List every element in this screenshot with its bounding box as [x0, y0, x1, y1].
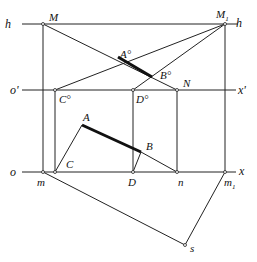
point-m1	[224, 171, 227, 174]
label-xprime: x'	[238, 84, 246, 96]
line-D-B	[133, 152, 141, 172]
point-Cdeg	[54, 89, 57, 92]
label-h-left: h	[5, 18, 11, 30]
segment-Adeg-Bdeg	[118, 57, 152, 77]
label-A: A	[83, 112, 90, 123]
label-s: s	[190, 243, 194, 254]
point-C	[54, 171, 57, 174]
label-C: C	[66, 159, 73, 170]
segment-AB	[82, 125, 141, 152]
point-D	[132, 171, 135, 174]
label-o: o	[10, 166, 16, 178]
point-N	[176, 89, 179, 92]
point-s	[184, 244, 187, 247]
line-M-N	[43, 24, 177, 90]
label-Adeg: A°	[120, 49, 131, 60]
label-M1-text: M	[216, 8, 225, 20]
point-Ddeg	[132, 89, 135, 92]
label-M: M	[49, 12, 58, 23]
diagram-lines	[0, 0, 257, 262]
label-M1-sub: 1	[225, 15, 229, 23]
line-m-s	[43, 172, 185, 245]
line-m1-s	[185, 172, 225, 245]
perspective-diagram: h h M M1 A° B° N o' x' C° D° A B C o x m…	[0, 0, 257, 262]
line-Ddeg-M1	[133, 24, 225, 90]
point-n	[176, 171, 179, 174]
label-m: m	[37, 177, 45, 188]
label-m1-sub: 1	[232, 183, 236, 191]
label-m1: m1	[224, 177, 235, 191]
label-m1-text: m	[224, 176, 232, 188]
label-Cdeg: C°	[59, 94, 71, 105]
line-Cdeg-M1	[55, 24, 225, 90]
label-h-right: h	[236, 17, 242, 29]
label-D: D	[128, 177, 136, 188]
label-n: n	[178, 177, 184, 188]
label-oprime: o'	[10, 84, 19, 96]
label-N: N	[183, 78, 190, 89]
label-Bdeg: B°	[160, 70, 171, 81]
label-x: x	[239, 165, 244, 177]
point-m	[42, 171, 45, 174]
label-M1: M1	[216, 9, 229, 23]
point-M	[42, 23, 45, 26]
label-Ddeg: D°	[136, 94, 148, 105]
line-B-n	[141, 152, 177, 172]
label-B: B	[146, 141, 153, 152]
